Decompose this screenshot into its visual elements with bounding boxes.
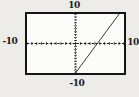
- ymin-label: -10: [70, 79, 85, 88]
- calculator-graph-figure: 10 -10 10 -10: [0, 0, 139, 97]
- ymax-label: 10: [68, 1, 80, 10]
- xmin-label: -10: [3, 37, 18, 46]
- xmax-label: 10: [127, 38, 139, 47]
- viewing-window-box: [25, 12, 126, 75]
- graph-canvas: [27, 14, 124, 73]
